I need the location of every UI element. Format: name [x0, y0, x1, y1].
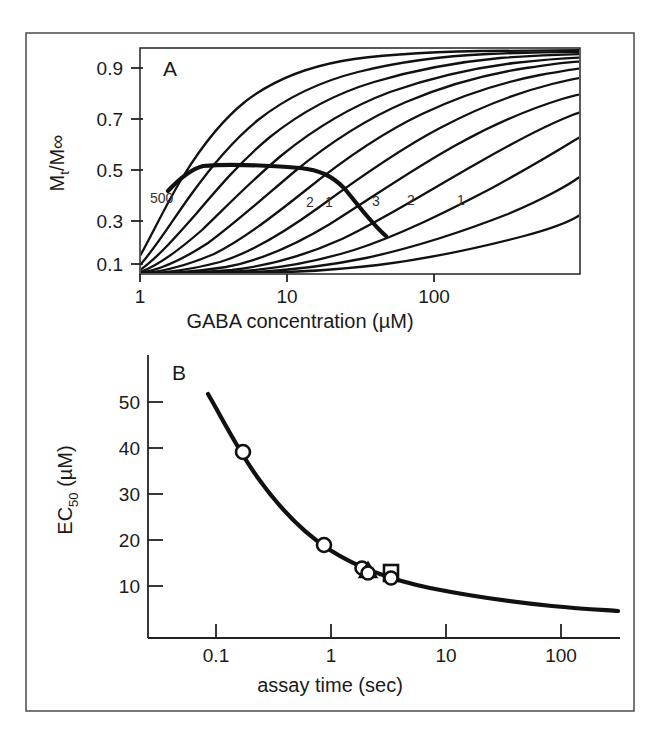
panel-b-letter: B — [172, 361, 186, 384]
panel-b-y-ticks — [148, 402, 163, 586]
panel-b-ytick-20: 20 — [119, 530, 140, 551]
panel-a-ylabel-m1: M — [46, 175, 68, 192]
panel-a-curve-family — [140, 50, 580, 274]
panel-a-y-ticks — [131, 68, 143, 264]
panel-b-fit-curve — [208, 394, 618, 611]
panel-b-xtick-2: 10 — [435, 645, 456, 666]
panel-b-ylabel-main: EC — [54, 507, 76, 535]
panel-b-x-ticks — [216, 624, 561, 638]
panel-a-ytick-2: 0.5 — [97, 160, 123, 181]
panel-a-xtick-0: 1 — [135, 286, 146, 307]
panel-a-ytick-1: 0.7 — [97, 109, 123, 130]
panel-a-ytick-0: 0.9 — [97, 58, 123, 79]
svg-text:Mt/M∞: Mt/M∞ — [46, 135, 72, 192]
panel-a-x-axis-title: GABA concentration (µM) — [186, 310, 413, 332]
panel-b-x-axis-title: assay time (sec) — [257, 674, 403, 696]
panel-a-ytick-3: 0.3 — [97, 211, 123, 232]
panel-a-curve-label-500: 500 — [150, 190, 174, 206]
panel-a-curve-label-3: 3 — [372, 193, 380, 209]
panel-a-ylabel-m2: M — [46, 149, 68, 166]
panel-a: 0.9 0.7 0.5 0.3 0.1 1 10 100 A Mt/M∞ — [46, 48, 580, 332]
panel-a-curve-6 — [140, 69, 580, 274]
panel-b-xtick-3: 100 — [545, 645, 577, 666]
panel-a-letter: A — [163, 57, 177, 80]
data-point-circle-1 — [236, 445, 250, 459]
panel-b: 50 40 30 20 10 0.1 1 10 100 B EC50 (µM) — [54, 355, 620, 696]
panel-b-ylabel-sub: 50 — [66, 492, 81, 506]
panel-a-xtick-1: 10 — [276, 286, 297, 307]
panel-a-curve-9 — [140, 113, 580, 275]
data-point-circle-4 — [362, 567, 375, 580]
data-point-circle-5 — [385, 572, 398, 585]
panel-b-ytick-30: 30 — [119, 484, 140, 505]
panel-a-curve-label-2b: 2 — [407, 192, 415, 208]
data-point-circle-2 — [317, 538, 331, 552]
figure-container: 0.9 0.7 0.5 0.3 0.1 1 10 100 A Mt/M∞ — [0, 0, 662, 738]
panel-b-xtick-0: 0.1 — [203, 645, 229, 666]
panel-b-ytick-50: 50 — [119, 392, 140, 413]
panel-b-data-points — [236, 445, 398, 585]
panel-a-ylabel-inf: ∞ — [46, 135, 68, 149]
panel-b-axis-lines — [148, 355, 620, 638]
panel-a-xtick-2: 100 — [418, 286, 450, 307]
panel-a-ec50-locus — [168, 165, 386, 236]
scientific-figure: 0.9 0.7 0.5 0.3 0.1 1 10 100 A Mt/M∞ — [0, 0, 662, 738]
panel-a-curve-label-1a: 1 — [325, 194, 333, 210]
panel-b-ylabel-unit: (µM) — [54, 445, 76, 487]
panel-a-ytick-4: 0.1 — [97, 254, 123, 275]
svg-text:EC50 (µM): EC50 (µM) — [54, 445, 81, 534]
panel-a-y-axis-title: Mt/M∞ — [46, 135, 72, 192]
panel-b-y-axis-title: EC50 (µM) — [54, 445, 81, 534]
panel-b-xtick-1: 1 — [326, 645, 337, 666]
panel-b-ytick-10: 10 — [119, 576, 140, 597]
panel-a-curve-label-1b: 1 — [457, 192, 465, 208]
panel-b-ytick-40: 40 — [119, 438, 140, 459]
figure-border — [26, 33, 634, 711]
panel-a-curve-2 — [140, 52, 580, 265]
panel-a-curve-label-2a: 2 — [306, 194, 314, 210]
panel-a-x-ticks — [140, 274, 434, 282]
